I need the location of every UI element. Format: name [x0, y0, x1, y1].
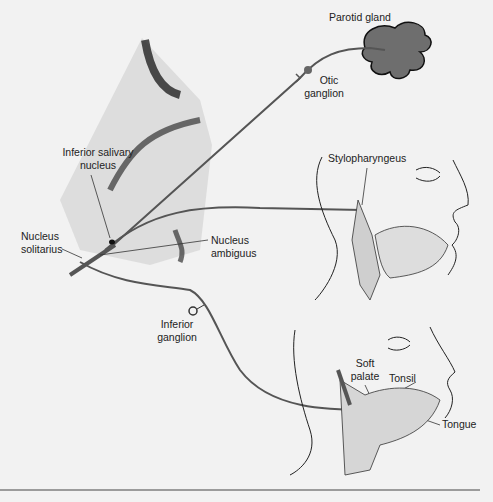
label-nucleus-ambiguus-line1: Nucleus — [211, 234, 249, 246]
otic-ganglion-dot — [304, 66, 312, 74]
label-parotid-gland: Parotid gland — [329, 11, 391, 23]
label-otic-ganglion-line1: Otic — [310, 74, 348, 86]
label-tonsil: Tonsil — [389, 372, 416, 384]
upper-muscles — [352, 200, 380, 300]
label-nucleus-solitarius-line1: Nucleus — [21, 230, 59, 242]
label-inferior-ganglion-line1: Inferior — [152, 318, 202, 330]
label-otic-ganglion-line2: ganglion — [300, 87, 348, 99]
label-inferior-salivary-line2: nucleus — [52, 159, 144, 171]
label-stylopharyngeus: Stylopharyngeus — [328, 152, 406, 164]
label-soft-palate-line2: palate — [345, 370, 385, 382]
lower-muscles — [340, 380, 440, 475]
label-tongue: Tongue — [442, 418, 476, 430]
anatomy-diagram: Parotid gland Otic ganglion Inferior sal… — [0, 0, 493, 502]
label-soft-palate-line1: Soft — [350, 357, 380, 369]
label-nucleus-solitarius-line2: solitarius — [21, 243, 62, 255]
label-nucleus-ambiguus-line2: ambiguus — [211, 247, 257, 259]
parotid-gland-shape — [362, 22, 431, 78]
inferior-ganglion-circle — [189, 307, 197, 315]
label-inferior-salivary-line1: Inferior salivary — [52, 146, 144, 158]
label-inferior-ganglion-line2: ganglion — [152, 331, 202, 343]
upper-head-outline — [315, 157, 337, 300]
